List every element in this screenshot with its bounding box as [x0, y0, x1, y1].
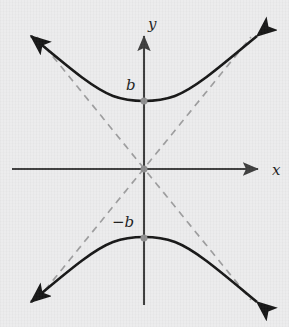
hyperbola-plot: [0, 0, 289, 327]
upper-vertex-point: [141, 98, 148, 105]
upper-vertex-label: b: [126, 78, 136, 93]
x-axis-label: x: [272, 163, 280, 178]
origin-point: [141, 166, 148, 173]
hyperbola-figure: y x b −b: [0, 0, 289, 327]
lower-vertex-point: [141, 235, 148, 242]
lower-vertex-label: −b: [112, 215, 134, 230]
y-axis-label: y: [148, 17, 156, 32]
